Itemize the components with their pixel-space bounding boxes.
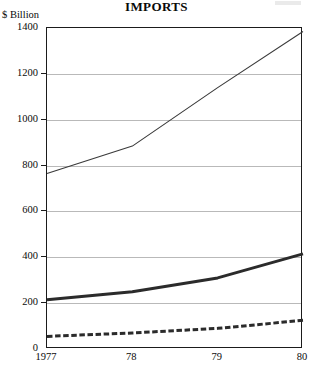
- series-lines: [47, 28, 303, 349]
- plot-area: [46, 27, 302, 348]
- x-tick-label: 78: [126, 351, 137, 362]
- series-line-lower-imports: [47, 320, 303, 336]
- imports-line-chart: IMPORTS $ Billion 0200400600800100012001…: [0, 0, 313, 371]
- x-tick-label: 80: [297, 351, 308, 362]
- series-line-total-imports: [47, 31, 303, 173]
- x-tick-label: 1977: [36, 351, 57, 362]
- x-tick-label: 79: [211, 351, 222, 362]
- series-line-middle-imports: [47, 254, 303, 300]
